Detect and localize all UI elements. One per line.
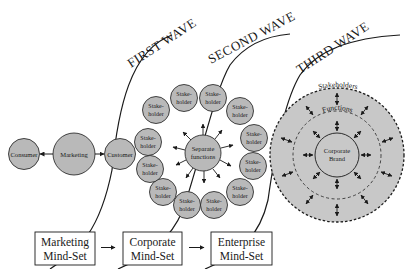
stakeholder-node: Stake-holder (135, 129, 162, 156)
enterprise-branding-diagram: FIRST WAVE SECOND WAVE THIRD WAVE Consum… (0, 0, 412, 269)
svg-text:holder: holder (245, 167, 260, 173)
svg-text:Stake-: Stake- (142, 162, 157, 168)
corporate-mindset-line1: Corporate (130, 236, 176, 249)
first-wave-label: FIRST WAVE (124, 15, 198, 71)
stakeholder-node: Stake-holder (174, 192, 201, 219)
svg-text:holder: holder (232, 112, 247, 118)
svg-text:holder: holder (246, 139, 261, 145)
third-wave-group: Corporate Brand Stakeholders Functions (270, 80, 404, 222)
svg-text:Stake-: Stake- (232, 104, 247, 110)
customer-label: Customer (107, 151, 133, 158)
first-wave-group: Consumer Marketing Customer (9, 133, 136, 175)
svg-text:holder: holder (142, 170, 157, 176)
svg-text:Stake-: Stake- (205, 91, 220, 97)
stakeholder-node: Stake-holder (227, 98, 254, 125)
stakeholder-node: Stake-holder (201, 192, 228, 219)
svg-text:holder: holder (232, 193, 247, 199)
svg-text:Stake-: Stake- (232, 185, 247, 191)
svg-text:Stake-: Stake- (140, 135, 155, 141)
svg-text:Stake-: Stake- (148, 103, 163, 109)
enterprise-mindset-line2: Mind-Set (220, 250, 264, 262)
svg-text:Stake-: Stake- (246, 131, 261, 137)
svg-text:Stake-: Stake- (245, 159, 260, 165)
marketing-label: Marketing (60, 151, 88, 158)
mindset-row: Marketing Mind-Set Corporate Mind-Set En… (35, 232, 272, 265)
stakeholder-node: Stake-holder (200, 85, 227, 112)
svg-text:holder: holder (205, 99, 220, 105)
stakeholder-node: Stake-holder (227, 179, 254, 206)
stakeholder-node: Stake-holder (150, 179, 177, 206)
marketing-mindset-line2: Mind-Set (43, 250, 87, 262)
stakeholder-node: Stake-holder (143, 97, 170, 124)
svg-text:holder: holder (179, 206, 194, 212)
second-wave-label: SECOND WAVE (205, 8, 297, 67)
separate-functions-label-2: functions (191, 153, 216, 160)
svg-text:holder: holder (176, 99, 191, 105)
svg-text:holder: holder (155, 193, 170, 199)
third-wave-label: THIRD WAVE (293, 18, 371, 76)
svg-text:Stake-: Stake- (179, 198, 194, 204)
separate-functions-label-1: Separate (192, 145, 215, 152)
stakeholder-node: Stake-holder (241, 125, 268, 152)
corporate-brand-label-1: Corporate (324, 147, 350, 154)
marketing-mindset-line1: Marketing (41, 236, 89, 249)
stakeholder-node: Stake-holder (171, 85, 198, 112)
svg-text:holder: holder (206, 206, 221, 212)
consumer-label: Consumer (10, 151, 38, 158)
stakeholder-node: Stake-holder (137, 156, 164, 183)
svg-text:holder: holder (140, 143, 155, 149)
svg-text:Stake-: Stake- (206, 198, 221, 204)
stakeholder-node: Stake-holder (240, 153, 267, 180)
corporate-brand-label-2: Brand (329, 155, 346, 162)
svg-text:Stake-: Stake- (176, 91, 191, 97)
enterprise-mindset-line1: Enterprise (218, 236, 265, 249)
corporate-mindset-line2: Mind-Set (131, 250, 175, 262)
second-wave-group: Separate functions Stake-holder Stake-ho… (135, 85, 268, 219)
svg-text:Stake-: Stake- (155, 185, 170, 191)
svg-text:holder: holder (148, 111, 163, 117)
